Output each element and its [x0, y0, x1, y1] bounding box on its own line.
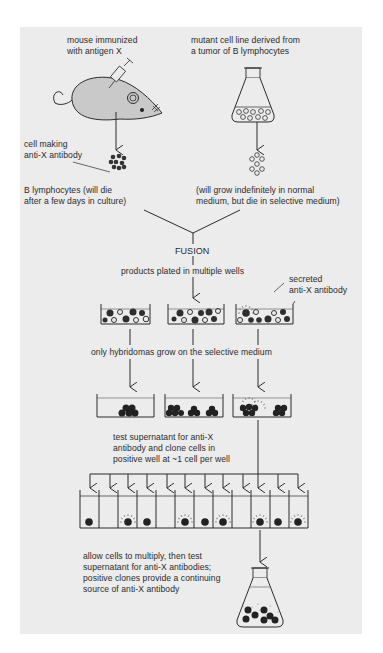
- mouse-illustration: [54, 58, 162, 120]
- clone-distribution-lines: [90, 420, 298, 474]
- tumor-cell-cluster: [250, 153, 265, 176]
- selected-plate-1: [97, 394, 154, 417]
- tumor-flask: [232, 68, 274, 122]
- selected-plate-2: [165, 394, 223, 417]
- final-flask: [237, 568, 283, 627]
- initial-plate-1: [101, 304, 150, 324]
- initial-plate-3: [236, 301, 295, 324]
- initial-plate-2: [168, 304, 224, 324]
- fusion-merge-lines: [144, 210, 240, 265]
- antibody-cell-cluster: [109, 154, 127, 171]
- selected-plate-3: [233, 394, 291, 417]
- clone-wells-strip: [80, 490, 308, 528]
